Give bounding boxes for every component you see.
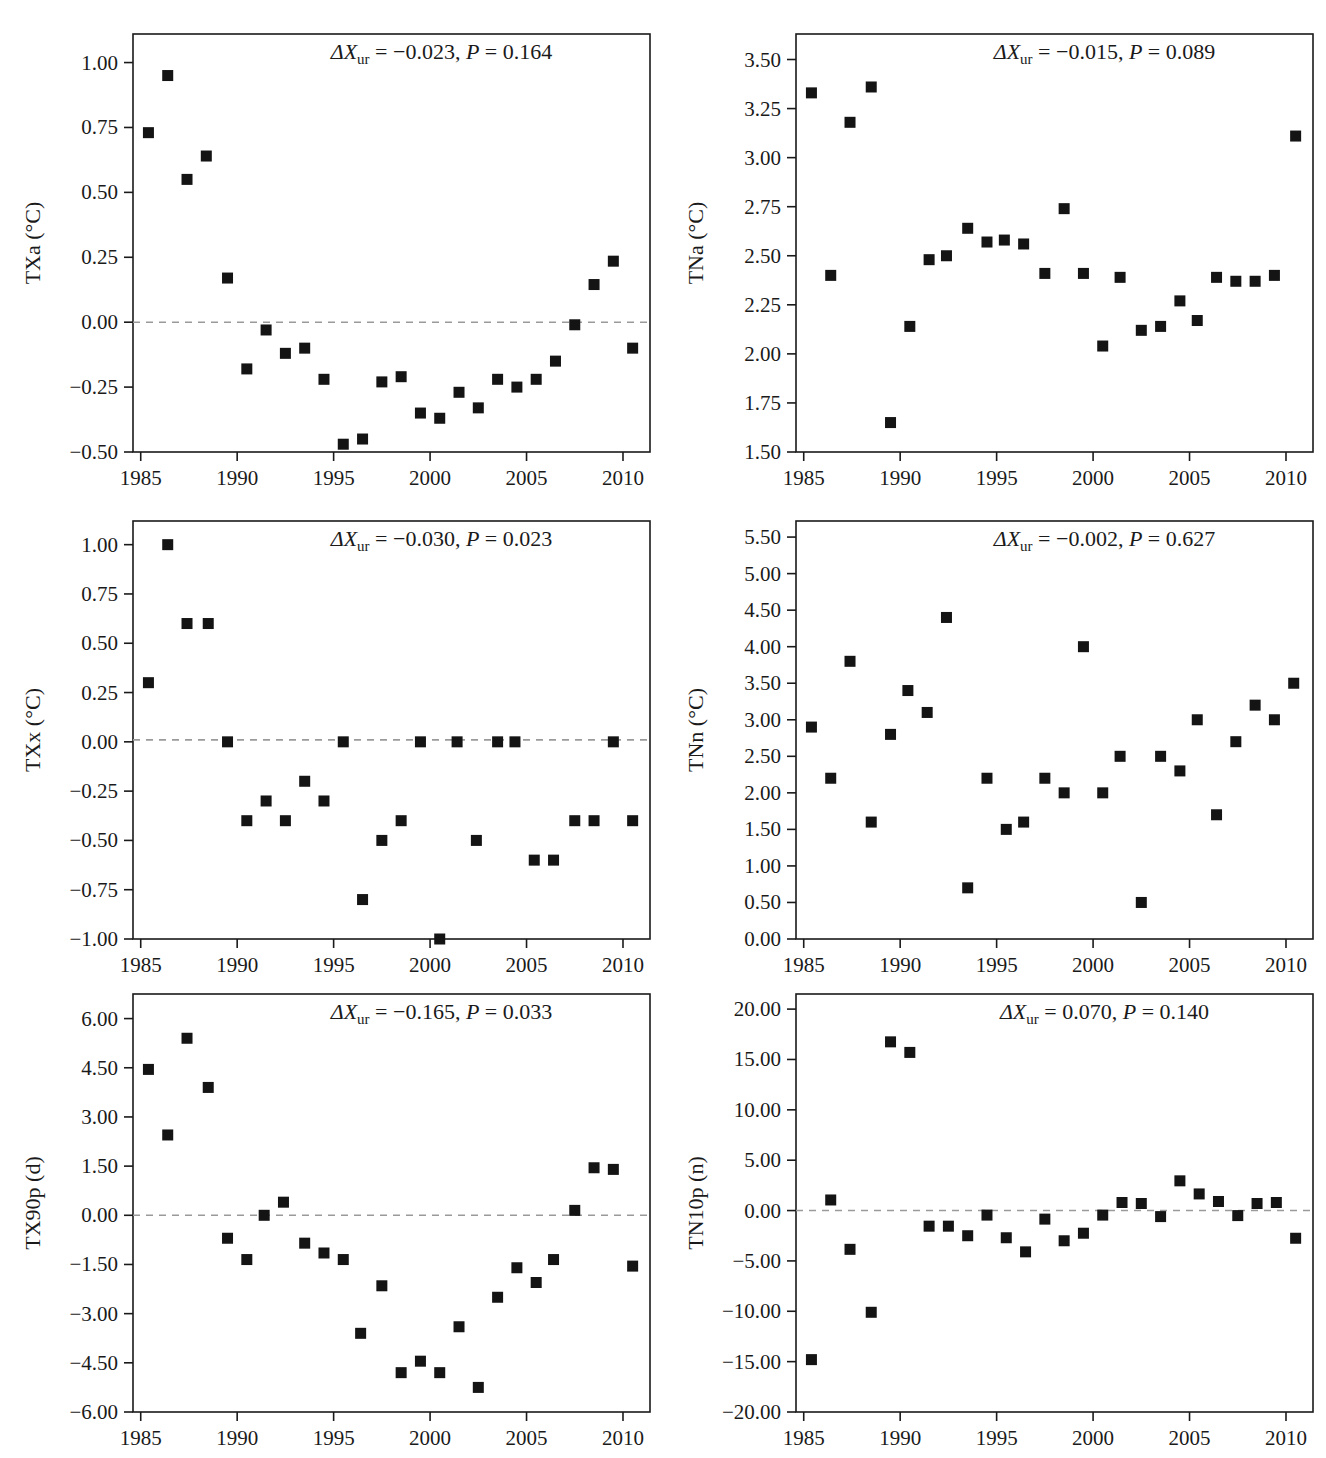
- data-point: [143, 677, 154, 688]
- data-point: [627, 815, 638, 826]
- data-point: [182, 174, 193, 185]
- y-tick-label: 1.50: [81, 1154, 118, 1178]
- data-point: [1059, 203, 1070, 214]
- data-point: [1115, 751, 1126, 762]
- data-point: [866, 81, 877, 92]
- data-point: [1018, 238, 1029, 249]
- y-axis-title: TXa (°C): [20, 202, 45, 285]
- data-point: [550, 356, 561, 367]
- data-point: [569, 815, 580, 826]
- data-point: [531, 374, 542, 385]
- y-tick-label: −0.50: [69, 440, 118, 464]
- x-tick-label: 1995: [313, 1426, 355, 1450]
- data-point: [1230, 736, 1241, 747]
- data-point: [962, 223, 973, 234]
- data-point: [222, 273, 233, 284]
- y-tick-label: 1.00: [81, 533, 118, 557]
- data-point: [885, 1036, 896, 1047]
- data-point: [941, 612, 952, 623]
- panel-txa: −0.50−0.250.000.250.500.751.001985199019…: [0, 0, 663, 490]
- data-series: [143, 1033, 638, 1393]
- data-point: [825, 270, 836, 281]
- y-tick-label: 3.25: [744, 97, 781, 121]
- data-point: [1097, 787, 1108, 798]
- data-point: [1174, 1175, 1185, 1186]
- data-point: [434, 1367, 445, 1378]
- data-point: [529, 855, 540, 866]
- y-tick-label: 3.50: [744, 48, 781, 72]
- y-tick-label: 0.75: [81, 115, 118, 139]
- y-tick-label: 4.50: [81, 1056, 118, 1080]
- data-point: [203, 618, 214, 629]
- y-tick-label: 20.00: [734, 997, 781, 1021]
- x-tick-label: 2005: [506, 1426, 548, 1450]
- data-point: [999, 235, 1010, 246]
- x-tick-label: 2000: [409, 1426, 451, 1450]
- y-tick-label: 0.00: [81, 310, 118, 334]
- data-point: [569, 319, 580, 330]
- y-tick-label: 2.25: [744, 293, 781, 317]
- y-tick-label: 0.00: [744, 927, 781, 951]
- y-tick-label: 5.50: [744, 525, 781, 549]
- data-point: [608, 256, 619, 267]
- data-point: [1211, 272, 1222, 283]
- y-tick-label: 4.00: [744, 635, 781, 659]
- data-point: [1250, 700, 1261, 711]
- data-point: [1039, 268, 1050, 279]
- data-point: [1115, 272, 1126, 283]
- data-point: [608, 1164, 619, 1175]
- data-point: [162, 70, 173, 81]
- y-tick-label: 1.00: [744, 854, 781, 878]
- y-tick-label: 3.50: [744, 671, 781, 695]
- y-tick-label: 2.75: [744, 195, 781, 219]
- panel-tnn: 0.000.501.001.502.002.503.003.504.004.50…: [663, 487, 1326, 977]
- data-point: [1059, 787, 1070, 798]
- data-point: [1230, 276, 1241, 287]
- data-point: [1269, 714, 1280, 725]
- y-tick-label: −0.25: [69, 375, 118, 399]
- data-point: [415, 408, 426, 419]
- data-point: [1271, 1197, 1282, 1208]
- y-tick-label: −3.00: [69, 1302, 118, 1326]
- data-point: [1001, 824, 1012, 835]
- data-point: [1232, 1210, 1243, 1221]
- data-point: [845, 117, 856, 128]
- data-point: [1136, 1198, 1147, 1209]
- y-tick-label: 3.00: [81, 1105, 118, 1129]
- data-point: [434, 934, 445, 945]
- data-point: [1001, 1232, 1012, 1243]
- data-point: [280, 815, 291, 826]
- data-point: [531, 1277, 542, 1288]
- data-point: [825, 1194, 836, 1205]
- stat-annotation: ΔXur = −0.015, P = 0.089: [993, 39, 1216, 67]
- data-point: [492, 374, 503, 385]
- y-axis-title: TXx (°C): [20, 688, 45, 772]
- data-point: [511, 382, 522, 393]
- data-point: [962, 882, 973, 893]
- plot-frame: [796, 521, 1313, 939]
- y-tick-label: 1.00: [81, 51, 118, 75]
- y-tick-label: 1.75: [744, 391, 781, 415]
- stat-annotation: ΔXur = −0.165, P = 0.033: [330, 999, 553, 1027]
- data-point: [471, 835, 482, 846]
- y-axis-title: TNa (°C): [683, 202, 708, 285]
- x-tick-label: 2010: [1265, 1426, 1307, 1450]
- y-tick-label: 4.50: [744, 598, 781, 622]
- data-point: [338, 439, 349, 450]
- data-point: [338, 736, 349, 747]
- y-tick-label: 0.50: [81, 631, 118, 655]
- data-point: [904, 1047, 915, 1058]
- y-tick-label: 0.25: [81, 245, 118, 269]
- data-point: [1213, 1196, 1224, 1207]
- data-point: [280, 348, 291, 359]
- data-point: [825, 773, 836, 784]
- data-point: [511, 1262, 522, 1273]
- data-point: [548, 855, 559, 866]
- plot-tx90p: −6.00−4.50−3.00−1.500.001.503.004.506.00…: [0, 960, 663, 1450]
- data-point: [981, 773, 992, 784]
- data-point: [1288, 678, 1299, 689]
- data-point: [454, 387, 465, 398]
- data-point: [924, 1221, 935, 1232]
- data-point: [1194, 1188, 1205, 1199]
- data-point: [222, 1233, 233, 1244]
